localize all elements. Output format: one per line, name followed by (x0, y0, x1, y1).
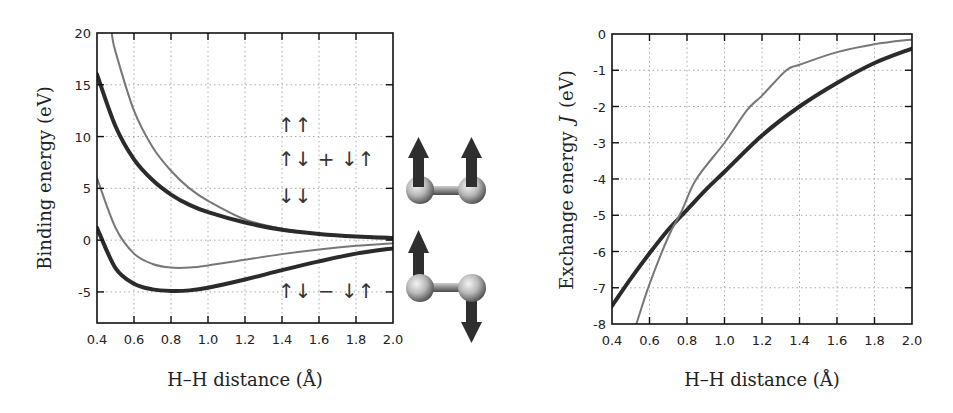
spin-label-down-down: ↓↓ (278, 184, 312, 208)
y-tick-label: -1 (593, 63, 606, 78)
y-tick-label: 5 (83, 181, 91, 196)
x-tick-label: 1.8 (346, 332, 367, 347)
x-tick-label: 1.0 (714, 333, 735, 348)
y-tick-label: -3 (593, 136, 606, 151)
grid (612, 34, 912, 324)
x-tick-label: 1.6 (827, 333, 848, 348)
x-tick-label: 1.2 (752, 333, 773, 348)
y-axis-label: Binding energy (eV) (34, 86, 55, 269)
x-tick-label: 2.0 (902, 333, 923, 348)
series-line (112, 33, 393, 237)
x-tick-label: 0.8 (677, 333, 698, 348)
y-tick-label: 20 (74, 26, 91, 41)
series-line (612, 49, 912, 306)
x-tick-label: 1.2 (235, 332, 256, 347)
x-tick-label: 1.0 (198, 332, 219, 347)
x-tick-label: 1.6 (309, 332, 330, 347)
x-axis-label: H–H distance (Å) (167, 369, 323, 390)
y-tick-label: -4 (593, 172, 606, 187)
y-tick-label: 0 (83, 233, 91, 248)
y-axis-label-text: Exchange energy (556, 130, 577, 289)
y-axis-label-unit: (eV) (556, 70, 577, 108)
y-tick-label: -8 (593, 317, 606, 332)
hydrogen-atom (458, 274, 486, 302)
hydrogen-atom (406, 274, 434, 302)
y-tick-label: -2 (593, 100, 606, 115)
y-tick-label: 10 (74, 130, 91, 145)
binding-energy-plot: 0.40.60.81.01.21.41.61.82.020151050-5 H–… (34, 26, 403, 390)
y-tick-label: 15 (74, 78, 91, 93)
y-tick-label: -5 (593, 208, 606, 223)
y-tick-label: 0 (598, 27, 606, 42)
x-tick-label: 1.4 (789, 333, 810, 348)
curves (612, 39, 912, 324)
x-tick-label: 0.4 (602, 333, 623, 348)
x-tick-label: 0.4 (87, 332, 108, 347)
y-tick-label: -5 (78, 285, 91, 300)
y-tick-label: -7 (593, 281, 606, 296)
molecule-parallel-spins (406, 137, 486, 204)
x-axis-label: H–H distance (Å) (684, 369, 840, 390)
ticks: 0.40.60.81.01.21.41.61.82.00-1-2-3-4-5-6… (593, 27, 922, 348)
y-axis-label-symbol: J (556, 114, 577, 127)
x-tick-label: 1.8 (864, 333, 885, 348)
spin-label-symmetric: ↑↓ + ↓↑ (278, 147, 375, 171)
molecule-antiparallel-spins (406, 230, 486, 343)
y-axis-label: Exchange energyJ(eV) (556, 70, 577, 289)
exchange-energy-plot: 0.40.60.81.01.21.41.61.82.00-1-2-3-4-5-6… (556, 27, 922, 390)
spin-label-antisymmetric: ↑↓ − ↓↑ (278, 279, 375, 303)
spin-label-up-up: ↑↑ (278, 113, 312, 137)
x-tick-label: 0.8 (161, 332, 182, 347)
x-tick-label: 1.4 (272, 332, 293, 347)
x-tick-label: 2.0 (383, 332, 404, 347)
figure: 0.40.60.81.01.21.41.61.82.020151050-5 H–… (0, 0, 953, 413)
y-tick-label: -6 (593, 245, 606, 260)
series-line (636, 39, 912, 324)
x-tick-label: 0.6 (124, 332, 145, 347)
x-tick-label: 0.6 (639, 333, 660, 348)
